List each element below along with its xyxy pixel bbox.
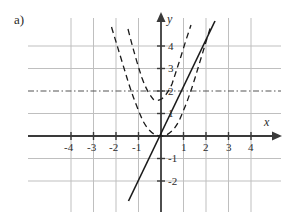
x-tick-label: 1 [181,142,187,153]
x-tick-label: -4 [64,142,73,153]
x-tick-label: -3 [87,142,96,153]
y-tick-label: 3 [168,63,174,74]
figure-panel: a) x y -4 -3 -2 -1 1 2 3 4 4 3 2 1 -1 -2 [0,0,292,220]
x-axis [28,132,282,141]
x-tick-label: 3 [226,142,232,153]
y-tick-label: -2 [168,176,177,187]
y-tick-label: 2 [168,86,174,97]
y-tick-label: 4 [168,41,174,52]
x-tick-label: -2 [109,142,118,153]
y-tick-label: -1 [168,153,177,164]
grid-lines [28,18,281,212]
y-tick-label: 1 [168,108,174,119]
y-axis-label: y [167,14,172,25]
x-tick-label: 4 [248,142,254,153]
coordinate-plot [0,0,292,220]
x-tick-label: -1 [132,142,141,153]
y-axis [157,12,166,212]
panel-label: a) [14,14,24,25]
x-axis-label: x [264,117,269,128]
x-tick-label: 2 [203,142,209,153]
